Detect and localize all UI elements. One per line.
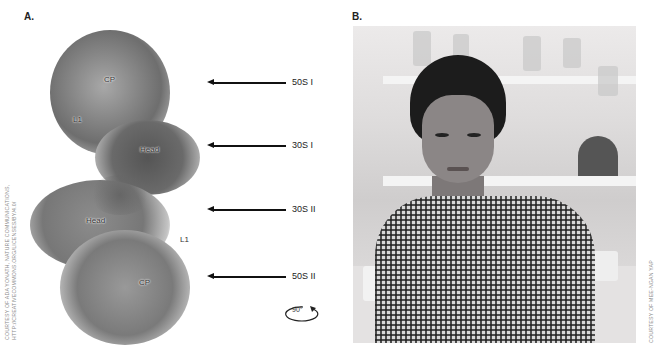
cp-label-top: CP xyxy=(104,75,115,84)
credit-line-1: COURTESY OF ADA YONATH, NATURE COMMUNICA… xyxy=(4,185,11,340)
panel-b-label: B. xyxy=(352,11,362,22)
arrow-50s-ii xyxy=(212,276,286,278)
arrow-30s-ii xyxy=(212,209,286,211)
rotation-angle: 90° xyxy=(292,306,303,313)
right-eye xyxy=(467,133,481,137)
left-eye xyxy=(435,133,449,137)
face xyxy=(422,95,494,183)
head xyxy=(410,55,506,180)
arrow-label-50s-ii: 50S II xyxy=(292,271,316,281)
panel-b-credit: COURTESY OF MEE-NGAN YAP xyxy=(648,260,654,343)
head-label-bottom: Head xyxy=(86,216,105,225)
lab-bottle xyxy=(563,38,581,68)
ribosome-connector xyxy=(90,175,150,215)
arrow-label-30s-i: 30S I xyxy=(292,140,313,150)
arrow-label-30s-ii: 30S II xyxy=(292,204,316,214)
mouth xyxy=(447,167,469,171)
lab-bottle xyxy=(523,36,541,71)
researcher-photo xyxy=(353,26,636,343)
ribosome-structure-image: CP L1 Head Head L1 CP xyxy=(30,30,210,340)
arrow-50s-i xyxy=(212,82,286,84)
lab-equipment xyxy=(578,136,618,176)
credit-line-2: HTTP://CREATIVECOMMONS.ORG/LICENSES/BY/4… xyxy=(11,185,18,340)
arrow-30s-i xyxy=(212,145,286,147)
cp-label-bottom: CP xyxy=(139,278,150,287)
ribosome-50s-bottom xyxy=(60,230,190,345)
l1-label-top: L1 xyxy=(73,115,82,124)
gingham-shirt xyxy=(375,196,595,343)
lab-bottle xyxy=(598,66,618,96)
l1-label-bottom: L1 xyxy=(180,235,189,244)
head-label-top: Head xyxy=(140,145,159,154)
panel-a-label: A. xyxy=(24,11,34,22)
arrow-label-50s-i: 50S I xyxy=(292,77,313,87)
panel-a-credit: COURTESY OF ADA YONATH, NATURE COMMUNICA… xyxy=(4,185,17,340)
